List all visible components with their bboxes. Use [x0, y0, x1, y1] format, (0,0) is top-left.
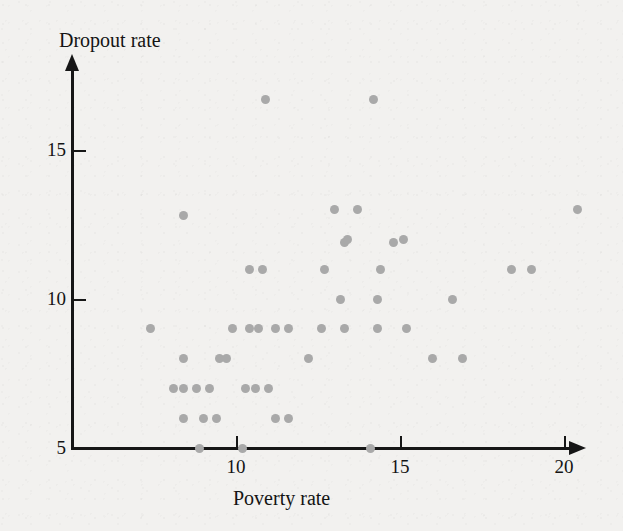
data-point: [507, 265, 516, 274]
data-point: [179, 354, 188, 363]
data-point: [258, 265, 267, 274]
data-point: [179, 414, 188, 423]
data-point: [317, 324, 326, 333]
data-point: [251, 384, 260, 393]
data-point: [343, 235, 352, 244]
data-point: [199, 414, 208, 423]
data-point: [205, 384, 214, 393]
data-point: [238, 444, 247, 453]
data-point: [366, 444, 375, 453]
data-point: [402, 324, 411, 333]
data-point: [146, 324, 155, 333]
data-point: [228, 324, 237, 333]
data-point: [245, 324, 254, 333]
data-point: [261, 95, 270, 104]
data-point: [264, 384, 273, 393]
data-point: [448, 295, 457, 304]
data-point: [284, 324, 293, 333]
data-point: [373, 324, 382, 333]
data-point: [222, 354, 231, 363]
data-point: [353, 205, 362, 214]
data-point: [399, 235, 408, 244]
data-point: [271, 414, 280, 423]
data-point: [369, 95, 378, 104]
data-point: [169, 384, 178, 393]
data-point: [304, 354, 313, 363]
data-point: [458, 354, 467, 363]
data-point: [195, 444, 204, 453]
data-point: [428, 354, 437, 363]
data-point: [179, 211, 188, 220]
data-point: [340, 324, 349, 333]
data-point: [192, 384, 201, 393]
data-point: [254, 324, 263, 333]
data-point: [373, 295, 382, 304]
data-point: [241, 384, 250, 393]
data-point: [284, 414, 293, 423]
data-point: [245, 265, 254, 274]
data-point: [527, 265, 536, 274]
data-point: [376, 265, 385, 274]
data-point: [212, 414, 221, 423]
data-point: [320, 265, 329, 274]
data-point: [330, 205, 339, 214]
data-point: [336, 295, 345, 304]
data-points-layer: [0, 0, 623, 531]
data-point: [179, 384, 188, 393]
data-point: [271, 324, 280, 333]
data-point: [573, 205, 582, 214]
scatterplot-figure: Dropout rate Poverty rate 51015101520: [0, 0, 623, 531]
data-point: [389, 238, 398, 247]
